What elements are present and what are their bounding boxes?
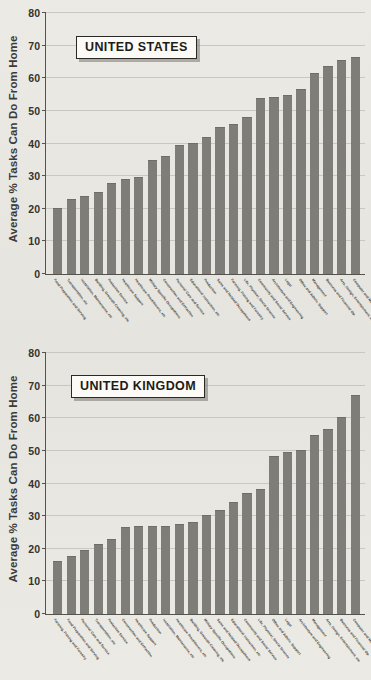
bar[interactable] bbox=[229, 124, 238, 274]
bar[interactable] bbox=[188, 522, 197, 614]
x-axis-label-slot: Sales and Related Occupations bbox=[212, 276, 226, 338]
x-axis-label-slot: Protective Service bbox=[103, 616, 117, 678]
x-axis-labels-uk: Farming, Fishing and ForestryFood Prepar… bbox=[45, 616, 365, 678]
x-axis-label-slot: Legal bbox=[280, 276, 294, 338]
bar[interactable] bbox=[67, 199, 76, 274]
y-axis-title-label-uk: Average % Tasks Can Do From Home bbox=[7, 375, 19, 582]
x-axis-label-slot: Installation, Maintenance, etc bbox=[158, 616, 172, 678]
bar[interactable] bbox=[256, 489, 265, 614]
x-axis-label-slot: Healthcare Practitioners, etc bbox=[131, 276, 145, 338]
bar[interactable] bbox=[134, 177, 143, 274]
bar-slot bbox=[267, 353, 281, 614]
bar[interactable] bbox=[215, 510, 224, 614]
x-axis-label-slot: Sales and Related Occupations bbox=[212, 616, 226, 678]
x-axis-label-slot: Office and Admin. Support bbox=[294, 276, 308, 338]
x-axis-label-slot: Personal Care and Service bbox=[76, 616, 90, 678]
x-axis-label-slot: Computer and Mathematical bbox=[348, 616, 362, 678]
bar[interactable] bbox=[107, 183, 116, 274]
x-axis-label: Legal bbox=[284, 278, 293, 288]
bar[interactable] bbox=[215, 127, 224, 274]
bar[interactable] bbox=[107, 539, 116, 614]
bar[interactable] bbox=[351, 57, 360, 274]
x-axis-label-slot: Construction and Extraction bbox=[158, 276, 172, 338]
bar[interactable] bbox=[351, 395, 360, 614]
bar[interactable] bbox=[94, 192, 103, 274]
bar[interactable] bbox=[94, 544, 103, 614]
bar[interactable] bbox=[188, 143, 197, 274]
bar[interactable] bbox=[296, 450, 305, 614]
chart-panel-united-states: Average % Tasks Can Do From Home 0102030… bbox=[0, 0, 371, 340]
bar[interactable] bbox=[80, 550, 89, 614]
y-axis-tick-60-us: 60 bbox=[28, 72, 46, 84]
x-axis-label-slot: Building, Grounds Cleaning, etc bbox=[185, 616, 199, 678]
bar[interactable] bbox=[53, 561, 62, 614]
y-axis-tickmark bbox=[42, 352, 46, 353]
x-axis-label-slot: Architecture and Engineering bbox=[294, 616, 308, 678]
bar[interactable] bbox=[148, 160, 157, 274]
bar[interactable] bbox=[148, 526, 157, 614]
bar-slot bbox=[254, 353, 268, 614]
bar[interactable] bbox=[269, 97, 278, 274]
bar[interactable] bbox=[202, 137, 211, 274]
bar[interactable] bbox=[175, 524, 184, 614]
y-axis-tickmark bbox=[42, 273, 46, 274]
y-axis-tick-80-uk: 80 bbox=[28, 347, 46, 359]
bar-slot bbox=[294, 353, 308, 614]
bar[interactable] bbox=[161, 156, 170, 274]
bar[interactable] bbox=[283, 95, 292, 274]
bar[interactable] bbox=[175, 145, 184, 274]
bar-slot bbox=[254, 13, 268, 274]
bar[interactable] bbox=[121, 527, 130, 614]
y-axis-tickmark bbox=[42, 548, 46, 549]
bar-slot bbox=[281, 353, 295, 614]
bar[interactable] bbox=[310, 435, 319, 614]
x-axis-label: Legal bbox=[284, 618, 293, 628]
x-axis-label-slot: Personal Care and Service bbox=[171, 276, 185, 338]
bar[interactable] bbox=[256, 98, 265, 274]
bar[interactable] bbox=[269, 456, 278, 614]
x-axis-label-slot: Healthcare Practitioners, etc bbox=[171, 616, 185, 678]
y-axis-tickmark bbox=[42, 175, 46, 176]
bar[interactable] bbox=[202, 515, 211, 615]
bar[interactable] bbox=[337, 60, 346, 274]
bar[interactable] bbox=[67, 556, 76, 614]
bar-slot bbox=[227, 13, 241, 274]
bar[interactable] bbox=[229, 502, 238, 614]
x-axis-label-slot: Installation, Maintenance, etc bbox=[76, 276, 90, 338]
y-axis-tickmark bbox=[42, 12, 46, 13]
y-axis-tick-70-us: 70 bbox=[28, 40, 46, 52]
bar[interactable] bbox=[242, 117, 251, 274]
bar[interactable] bbox=[323, 429, 332, 614]
chart-panel-united-kingdom: Average % Tasks Can Do From Home 0102030… bbox=[0, 340, 371, 680]
bar[interactable] bbox=[337, 417, 346, 614]
y-axis-tick-20-us: 20 bbox=[28, 203, 46, 215]
x-axis-label-slot: Military Specific Occupations bbox=[199, 616, 213, 678]
x-axis-label-slot: Life, Physical, Social Science bbox=[240, 276, 254, 338]
bar[interactable] bbox=[296, 89, 305, 274]
country-badge-us: UNITED STATES bbox=[76, 36, 197, 59]
x-axis-labels-us: Food Preparation and ServingTransportati… bbox=[45, 276, 365, 338]
y-axis-tick-30-uk: 30 bbox=[28, 510, 46, 522]
bar[interactable] bbox=[161, 526, 170, 614]
bar-slot bbox=[281, 13, 295, 274]
x-axis-label-slot: Farming, Fishing and Forestry bbox=[49, 616, 63, 678]
bar-slot bbox=[213, 353, 227, 614]
bar[interactable] bbox=[80, 196, 89, 274]
bar[interactable] bbox=[242, 493, 251, 614]
y-axis-tick-40-us: 40 bbox=[28, 138, 46, 150]
y-axis-tick-60-uk: 60 bbox=[28, 412, 46, 424]
y-axis-tick-10-uk: 10 bbox=[28, 575, 46, 587]
bar[interactable] bbox=[323, 66, 332, 274]
chart-page: Average % Tasks Can Do From Home 0102030… bbox=[0, 0, 371, 680]
x-axis-label-slot: Educational Instruction, etc bbox=[185, 276, 199, 338]
x-axis-label-slot: Healthcare Support bbox=[117, 276, 131, 338]
bar[interactable] bbox=[121, 179, 130, 274]
bar-slot bbox=[240, 353, 254, 614]
bar[interactable] bbox=[53, 208, 62, 274]
bar[interactable] bbox=[283, 452, 292, 614]
x-axis-label-slot: Food Preparation and Serving bbox=[49, 276, 63, 338]
bar[interactable] bbox=[310, 73, 319, 274]
bar[interactable] bbox=[134, 526, 143, 614]
x-axis-label-slot: Educational Instruction, etc bbox=[226, 616, 240, 678]
y-axis-tickmark bbox=[42, 483, 46, 484]
